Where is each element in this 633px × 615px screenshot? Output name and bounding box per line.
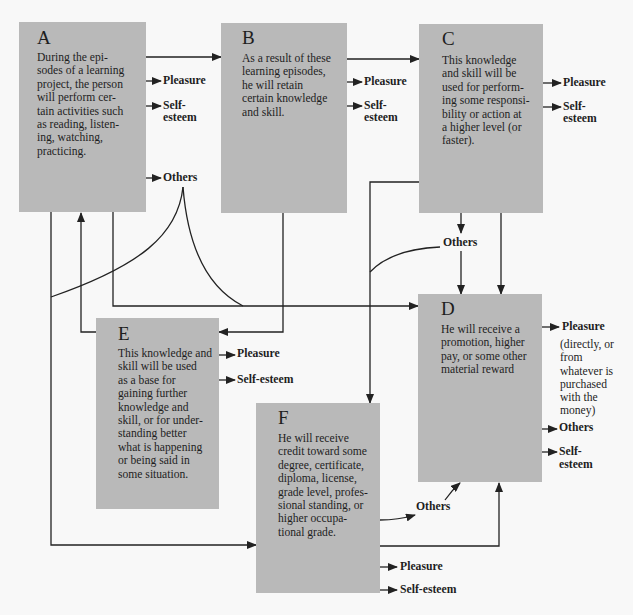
outcome-d-others: Others — [559, 421, 593, 434]
outcome-a-others: Others — [163, 171, 197, 184]
text-line: pay, or some other — [441, 350, 527, 363]
box-e: E This knowledge and skill will be used … — [96, 318, 219, 509]
outcome-b-pleasure: Pleasure — [364, 75, 407, 88]
outcome-c-pleasure: Pleasure — [563, 76, 606, 89]
outcome-c-others: Others — [443, 236, 477, 249]
outcome-d-pleasure: Pleasure — [562, 320, 605, 333]
outcome-f-self-esteem: Self-esteem — [400, 583, 456, 596]
text-line: diploma, license, — [278, 472, 368, 485]
box-label: C — [442, 29, 455, 48]
arrow-f-to-d — [380, 483, 499, 546]
box-f: F He will receive credit toward some deg… — [256, 403, 380, 593]
outcome-a-pleasure: Pleasure — [163, 74, 206, 87]
box-label: F — [278, 408, 289, 427]
text-line: esteem — [163, 112, 197, 124]
text-line: credit toward some — [278, 445, 368, 458]
text-line: sional standing, or — [278, 499, 368, 512]
text-line: and skill will be — [442, 67, 530, 80]
box-label: B — [242, 28, 255, 47]
text-line: skill will be used — [118, 360, 212, 373]
learning-benefits-diagram: A During the epi- sodes of a learning pr… — [0, 0, 633, 615]
text-line: skill, or for under- — [118, 414, 212, 427]
text-line: ing, watching, — [37, 131, 124, 144]
box-label: D — [441, 299, 455, 318]
text-line: During the epi- — [37, 51, 124, 64]
curve-c-others-to-f-line — [370, 247, 440, 272]
text-line: with the — [560, 391, 614, 404]
text-line: purchased — [560, 378, 614, 391]
box-a: A During the epi- sodes of a learning pr… — [19, 22, 146, 212]
text-line: He will receive — [278, 432, 368, 445]
outcome-f-others: Others — [416, 500, 450, 513]
text-line: standing better — [118, 427, 212, 440]
outcome-d-self-esteem: Self- esteem — [559, 446, 593, 471]
text-line: faster). — [442, 134, 530, 147]
text-line: practicing. — [37, 145, 124, 158]
arrow-b-to-e — [219, 213, 283, 332]
box-text: During the epi- sodes of a learning proj… — [37, 51, 124, 158]
box-b: B As a result of these learning episodes… — [221, 23, 347, 213]
arrow-e-to-a — [81, 213, 96, 332]
text-line: whatever is — [560, 365, 614, 378]
text-line: he will retain — [242, 79, 331, 92]
text-line: project, the person — [37, 78, 124, 91]
box-text: This knowledge and skill will be used fo… — [442, 54, 530, 148]
arrow-f-others — [380, 515, 415, 520]
text-line: degree, certificate, — [278, 459, 368, 472]
text-line: Self- — [559, 446, 593, 458]
box-c: C This knowledge and skill will be used … — [419, 24, 543, 213]
arrow-a-to-d — [113, 212, 418, 306]
text-line: learning episodes, — [242, 65, 331, 78]
box-text: He will receive a promotion, higher pay,… — [441, 323, 527, 377]
text-line: money) — [560, 404, 614, 417]
text-line: esteem — [563, 113, 597, 125]
box-label: E — [118, 324, 130, 343]
box-label: A — [37, 28, 51, 47]
text-line: certain knowledge — [242, 92, 331, 105]
text-line: ing some responsi- — [442, 94, 530, 107]
outcome-c-self-esteem: Self- esteem — [563, 101, 597, 125]
outcome-b-self-esteem: Self- esteem — [364, 100, 398, 124]
text-line: and skill. — [242, 106, 331, 119]
text-line: (directly, or — [560, 338, 614, 351]
outcome-e-pleasure: Pleasure — [237, 347, 280, 360]
outcome-d-pleasure-note: (directly, or from whatever is purchased… — [560, 338, 614, 418]
text-line: esteem — [559, 459, 593, 471]
outcome-e-self-esteem: Self-esteem — [237, 373, 293, 386]
box-text: He will receive credit toward some degre… — [278, 432, 368, 539]
text-line: bility or action at — [442, 108, 530, 121]
arrow-c-to-f — [370, 182, 419, 403]
arrow-others-f-to-d — [445, 483, 460, 500]
text-line: material reward — [441, 363, 527, 376]
outcome-f-pleasure: Pleasure — [400, 560, 443, 573]
text-line: used for perform- — [442, 81, 530, 94]
text-line: This knowledge and — [118, 347, 212, 360]
box-text: This knowledge and skill will be used as… — [118, 347, 212, 481]
box-text: As a result of these learning episodes, … — [242, 52, 331, 119]
text-line: from — [560, 351, 614, 364]
text-line: will perform cer- — [37, 91, 124, 104]
text-line: as reading, listen- — [37, 118, 124, 131]
text-line: This knowledge — [442, 54, 530, 67]
text-line: or being said in — [118, 454, 212, 467]
text-line: some situation. — [118, 468, 212, 481]
text-line: knowledge and — [118, 401, 212, 414]
text-line: As a result of these — [242, 52, 331, 65]
text-line: tional grade. — [278, 526, 368, 539]
text-line: promotion, higher — [441, 336, 527, 349]
text-line: He will receive a — [441, 323, 527, 336]
text-line: gaining further — [118, 387, 212, 400]
text-line: what is happening — [118, 441, 212, 454]
box-d: D He will receive a promotion, higher pa… — [418, 294, 542, 482]
text-line: sodes of a learning — [37, 64, 124, 77]
text-line: grade level, profes- — [278, 486, 368, 499]
text-line: esteem — [364, 112, 398, 124]
text-line: higher occupa- — [278, 512, 368, 525]
text-line: as a base for — [118, 374, 212, 387]
text-line: a higher level (or — [442, 121, 530, 134]
text-line: tain activities such — [37, 105, 124, 118]
outcome-a-self-esteem: Self- esteem — [163, 100, 197, 124]
